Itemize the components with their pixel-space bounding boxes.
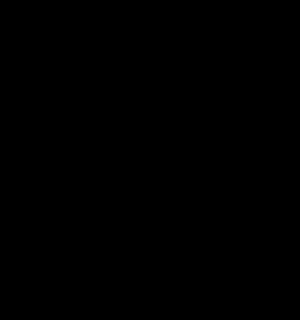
canvas-background [0,0,300,320]
geometry-diagram [0,0,300,320]
diagram-canvas [0,0,300,320]
